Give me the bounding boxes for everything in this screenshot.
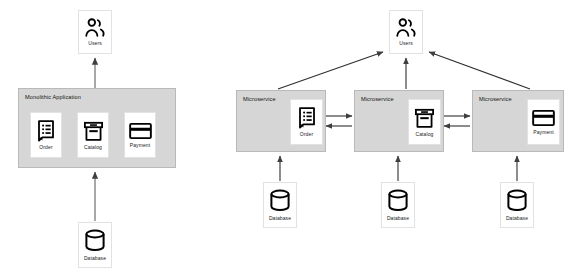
service-component-order[interactable]: Order: [290, 99, 323, 145]
database-label: Database: [269, 215, 291, 221]
document-list-icon: [297, 107, 317, 129]
database-label: Database: [84, 255, 106, 261]
archive-box-icon: [83, 121, 104, 142]
users-node-monolith[interactable]: Users: [78, 10, 112, 54]
microservice-title: Microservice: [479, 96, 512, 102]
component-catalog-label: Catalog: [84, 144, 102, 150]
archive-box-icon: [414, 108, 435, 129]
database-node-order[interactable]: Database: [263, 182, 297, 228]
users-label: Users: [399, 40, 413, 46]
component-order[interactable]: Order: [30, 112, 62, 158]
database-label: Database: [387, 215, 409, 221]
credit-card-icon: [532, 109, 555, 127]
document-list-icon: [36, 120, 56, 142]
service-component-catalog[interactable]: Catalog: [408, 99, 441, 145]
database-cylinder-icon: [506, 189, 528, 213]
link-service1-to-users: [278, 52, 383, 89]
users-icon: [395, 18, 417, 38]
service-component-label: Order: [300, 131, 313, 137]
service-component-payment[interactable]: Payment: [527, 99, 560, 145]
component-payment[interactable]: Payment: [124, 112, 156, 158]
service-component-label: Payment: [533, 129, 553, 135]
database-cylinder-icon: [84, 229, 106, 253]
component-catalog[interactable]: Catalog: [77, 112, 109, 158]
microservice-title: Microservice: [361, 96, 394, 102]
component-payment-label: Payment: [130, 142, 150, 148]
database-node-monolith[interactable]: Database: [78, 222, 112, 268]
database-label: Database: [506, 215, 528, 221]
component-order-label: Order: [39, 144, 52, 150]
database-cylinder-icon: [387, 189, 409, 213]
credit-card-icon: [129, 122, 152, 140]
microservice-title: Microservice: [243, 96, 276, 102]
database-node-catalog[interactable]: Database: [381, 182, 415, 228]
users-label: Users: [88, 40, 102, 46]
users-icon: [84, 18, 106, 38]
monolith-title: Monolithic Application: [25, 94, 81, 100]
diagram-canvas: Users Monolithic Application Order: [0, 0, 587, 279]
users-node-microservices[interactable]: Users: [389, 10, 423, 54]
link-service3-to-users: [429, 52, 530, 89]
service-component-label: Catalog: [416, 131, 434, 137]
database-node-payment[interactable]: Database: [500, 182, 534, 228]
database-cylinder-icon: [269, 189, 291, 213]
